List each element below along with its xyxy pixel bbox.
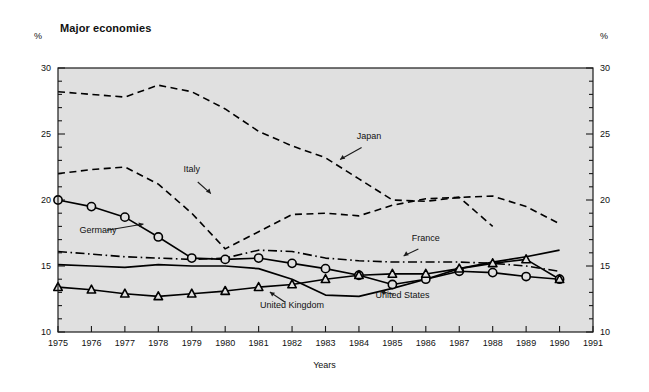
- marker-circle: [522, 272, 530, 280]
- series-label-italy: Italy: [183, 164, 200, 174]
- svg-text:15: 15: [600, 261, 610, 271]
- x-axis-label: Years: [0, 360, 649, 370]
- svg-text:10: 10: [600, 327, 610, 337]
- marker-circle: [255, 254, 263, 262]
- svg-text:25: 25: [41, 129, 51, 139]
- svg-text:1986: 1986: [416, 338, 436, 348]
- plot-area-background: [58, 68, 593, 332]
- svg-text:1981: 1981: [249, 338, 269, 348]
- svg-text:1979: 1979: [182, 338, 202, 348]
- svg-text:1991: 1991: [583, 338, 603, 348]
- y-axis-unit-right: %: [600, 31, 608, 41]
- svg-text:10: 10: [41, 327, 51, 337]
- svg-text:15: 15: [41, 261, 51, 271]
- y-axis-unit-left: %: [34, 31, 42, 41]
- svg-text:20: 20: [41, 195, 51, 205]
- svg-text:1984: 1984: [349, 338, 369, 348]
- marker-circle: [121, 213, 129, 221]
- svg-text:20: 20: [600, 195, 610, 205]
- series-label-united-kingdom: United Kingdom: [260, 300, 324, 310]
- svg-text:1989: 1989: [516, 338, 536, 348]
- svg-text:1982: 1982: [282, 338, 302, 348]
- svg-text:25: 25: [600, 129, 610, 139]
- series-label-japan: Japan: [357, 131, 382, 141]
- marker-circle: [489, 269, 497, 277]
- svg-text:1975: 1975: [48, 338, 68, 348]
- marker-circle: [321, 265, 329, 273]
- svg-text:1977: 1977: [115, 338, 135, 348]
- marker-circle: [221, 255, 229, 263]
- svg-text:1985: 1985: [382, 338, 402, 348]
- svg-text:1983: 1983: [315, 338, 335, 348]
- svg-text:1990: 1990: [550, 338, 570, 348]
- svg-text:1976: 1976: [81, 338, 101, 348]
- line-chart-plot: 1015202530 1015202530 197519761977197819…: [0, 0, 649, 392]
- chart-title: Major economies: [60, 22, 151, 34]
- marker-circle: [87, 203, 95, 211]
- marker-circle: [154, 233, 162, 241]
- svg-text:30: 30: [600, 63, 610, 73]
- marker-circle: [388, 280, 396, 288]
- svg-text:30: 30: [41, 63, 51, 73]
- svg-text:1988: 1988: [483, 338, 503, 348]
- marker-circle: [288, 259, 296, 267]
- marker-circle: [188, 254, 196, 262]
- svg-text:1978: 1978: [148, 338, 168, 348]
- chart-figure: % % Major economies Years 1015202530 101…: [0, 0, 649, 392]
- svg-text:1987: 1987: [449, 338, 469, 348]
- svg-text:1980: 1980: [215, 338, 235, 348]
- series-label-france: France: [412, 233, 440, 243]
